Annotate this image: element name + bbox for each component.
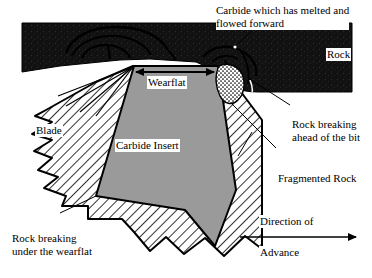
fragmented-rock-zone [216,64,244,103]
label-carbide-insert: Carbide Insert [115,139,180,152]
label-rock-breaking-under: Rock breaking under the wearflat [12,232,92,258]
label-blade: Blade [35,124,63,137]
label-direction-of: Direction of [259,215,314,228]
label-fragmented-rock: Fragmented Rock [277,172,358,185]
label-rock-breaking-ahead: Rock breaking ahead of the bit [292,118,360,144]
label-rock: Rock [326,48,351,61]
label-carbide-melted: Carbide which has melted and flowed forw… [216,4,349,30]
label-wearflat: Wearflat [147,76,187,89]
figure-container: Carbide which has melted and flowed forw… [0,0,372,278]
label-advance: Advance [259,246,300,259]
